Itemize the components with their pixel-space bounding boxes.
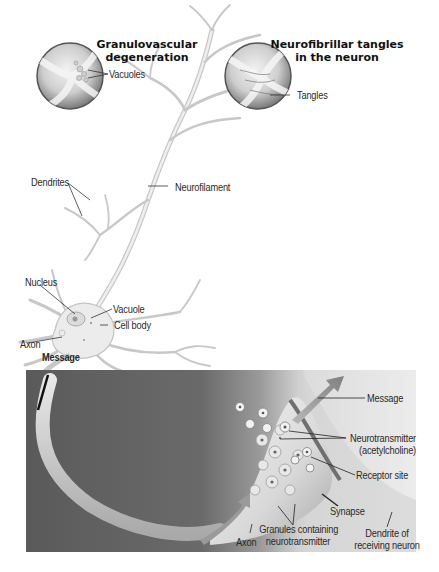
cell-body — [52, 303, 114, 358]
neuron-diagram: Granulovascular degeneration Neurofibril… — [0, 0, 439, 572]
label-message-neuron: Message — [42, 351, 80, 363]
label-tangles: Tangles — [297, 89, 328, 101]
label-axon: Axon — [20, 338, 40, 350]
label-message-synapse: Message — [367, 392, 403, 404]
label-dendrite-receiving: Dendrite of receiving neuron — [349, 527, 425, 551]
label-vacuoles: Vacuoles — [109, 68, 145, 80]
inset-title-neurofibrillar: Neurofibrillar tangles in the neuron — [262, 38, 412, 64]
label-axon-synapse: Axon — [236, 536, 256, 548]
inset-title-granulovascular: Granulovascular degeneration — [92, 38, 202, 64]
label-cell-body: Cell body — [114, 319, 151, 331]
label-synapse: Synapse — [330, 505, 365, 517]
label-vacuole: Vacuole — [113, 303, 144, 315]
label-neurotransmitter: Neurotransmitter (acetylcholine) — [350, 432, 416, 456]
label-granules: Granules containing neurotransmitter — [259, 523, 336, 547]
label-nucleus: Nucleus — [25, 276, 57, 288]
synapse-panel — [26, 370, 416, 552]
label-dendrites: Dendrites — [31, 176, 69, 188]
label-receptor-site: Receptor site — [356, 469, 408, 481]
label-neurofilament: Neurofilament — [175, 181, 230, 193]
